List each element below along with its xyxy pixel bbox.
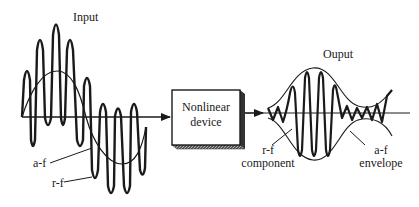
- box-side-shade: [240, 90, 245, 149]
- device-label-line1: Nonlinear: [172, 100, 240, 115]
- input-af-label: a-f: [33, 157, 46, 170]
- input-rf-label: r-f: [52, 177, 64, 190]
- output-af-pointer: [350, 131, 365, 145]
- af-pointer: [50, 148, 92, 163]
- input-label: Input: [73, 11, 98, 24]
- output-rf-label-line2: component: [238, 157, 298, 170]
- output-rf-label: r-f component: [238, 144, 298, 170]
- output-af-label: a-f envelope: [351, 144, 411, 170]
- device-label: Nonlinear device: [172, 100, 240, 130]
- rf-pointer: [64, 177, 92, 182]
- device-label-line2: device: [172, 115, 240, 130]
- output-rf-pointer: [272, 129, 292, 145]
- output-af-label-line2: envelope: [351, 157, 411, 170]
- output-envelope-upper: [268, 68, 392, 108]
- output-label: Ouput: [323, 48, 353, 61]
